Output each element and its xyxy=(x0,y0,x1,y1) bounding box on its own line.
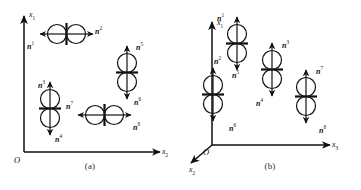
label-b-n1: n1 xyxy=(217,13,224,23)
dipole-b-3 xyxy=(202,68,224,121)
dipole-b-2 xyxy=(261,43,283,96)
panel-b-origin-label: O xyxy=(203,148,209,157)
dipole-b-4 xyxy=(295,70,317,123)
dipole-b-1 xyxy=(226,17,248,70)
panel-b: x1 x2 x3 O n1 n2 n3 n4 n5 n6 n7 xyxy=(180,0,360,190)
panel-a-axis-label-x2: x2 xyxy=(162,148,168,158)
label-a-n6: n6 xyxy=(134,97,141,107)
dipole-a-2 xyxy=(116,46,138,99)
label-a-n1: n1 xyxy=(27,41,34,51)
label-b-n8: n8 xyxy=(319,125,326,135)
label-a-n8: n8 xyxy=(133,122,140,132)
label-a-n7: n7 xyxy=(66,101,73,111)
dipole-a-3 xyxy=(39,82,61,135)
label-b-n2: n2 xyxy=(214,56,221,66)
label-a-n4: n4 xyxy=(55,134,62,144)
panel-b-axis-label-x3: x3 xyxy=(332,141,338,151)
panel-a-axis-label-x1: x1 xyxy=(29,11,35,21)
label-b-n4: n4 xyxy=(256,98,263,108)
panel-a: x1 x2 O n1 n2 n5 n6 n3 n4 n7 n8 (a) xyxy=(0,0,180,190)
dipole-a-1 xyxy=(40,23,93,45)
panel-a-caption: (a) xyxy=(0,161,180,171)
label-b-n5: n5 xyxy=(232,70,239,80)
label-b-n3: n3 xyxy=(282,40,289,50)
label-b-n7: n7 xyxy=(316,66,323,76)
panel-b-axes xyxy=(191,22,330,163)
figure-container: x1 x2 O n1 n2 n5 n6 n3 n4 n7 n8 (a) xyxy=(0,0,361,190)
label-a-n2: n2 xyxy=(95,26,102,36)
label-a-n3: n3 xyxy=(38,80,45,90)
dipole-a-4 xyxy=(78,104,131,126)
panel-b-caption: (b) xyxy=(180,161,360,171)
label-a-n5: n5 xyxy=(136,42,143,52)
label-b-n6: n6 xyxy=(229,123,236,133)
